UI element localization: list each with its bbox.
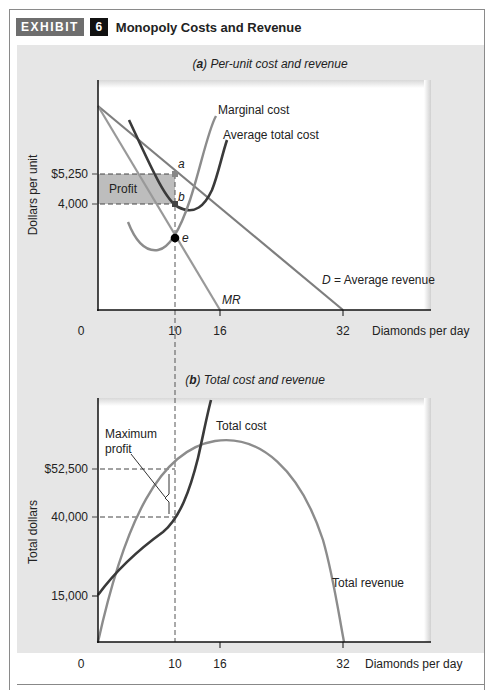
panel-a-y-label: Dollars per unit <box>26 154 40 235</box>
tc-label: Total cost <box>216 419 267 433</box>
y-tick-5250: $5,250 <box>51 167 88 181</box>
y-tick-15000: 15,000 <box>51 589 88 603</box>
panel-a-x-label: Diamonds per day <box>372 324 469 338</box>
panel-a: (a) Per-unit cost and revenue Profit a b… <box>26 57 469 410</box>
mr-label: MR <box>222 293 241 307</box>
point-b-label: b <box>178 190 185 204</box>
x-tick-10: 10 <box>168 657 182 671</box>
x-tick-32: 32 <box>336 657 350 671</box>
y-tick-4000: 4,000 <box>58 197 88 211</box>
panel-b-title: (b) Total cost and revenue <box>185 373 325 387</box>
atc-label: Average total cost <box>223 128 320 142</box>
y-tick-40000: 40,000 <box>51 510 88 524</box>
x-tick-16: 16 <box>213 324 227 338</box>
tr-label: Total revenue <box>332 576 404 590</box>
mc-label: Marginal cost <box>218 103 290 117</box>
x-tick-0: 0 <box>78 324 85 338</box>
panel-b-y-label: Total dollars <box>26 500 40 564</box>
point-e-marker <box>171 234 180 243</box>
point-e-label: e <box>182 231 189 245</box>
panel-b-x-label: Diamonds per day <box>365 657 462 671</box>
point-a-label: a <box>178 157 185 171</box>
y-tick-52500: $52,500 <box>45 462 89 476</box>
panel-b: (b) Total cost and revenue Maximum profi… <box>26 373 462 671</box>
x-tick-16: 16 <box>213 657 227 671</box>
point-a-marker <box>172 171 178 177</box>
x-tick-0: 0 <box>78 657 85 671</box>
max-profit-label-2: profit <box>105 442 132 456</box>
x-tick-32: 32 <box>336 324 350 338</box>
chart-canvas: (a) Per-unit cost and revenue Profit a b… <box>0 0 493 694</box>
panel-a-title: (a) Per-unit cost and revenue <box>192 57 348 71</box>
max-profit-label-1: Maximum <box>105 427 157 441</box>
profit-label: Profit <box>109 182 138 196</box>
demand-label: D = Average revenue <box>322 273 435 287</box>
x-tick-10: 10 <box>168 324 182 338</box>
